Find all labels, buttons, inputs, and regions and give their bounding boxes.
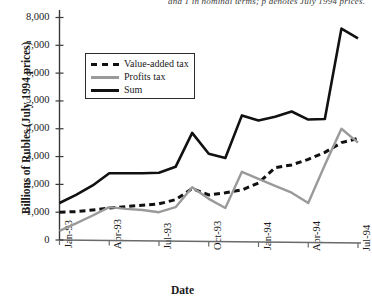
legend-swatch-gray-icon	[91, 76, 119, 79]
legend-swatch-black-icon	[91, 89, 119, 92]
legend-swatch-dashed-icon	[91, 63, 119, 66]
legend-item-sum: Sum	[91, 84, 191, 97]
legend-label: Value-added tax	[124, 58, 189, 69]
legend-item-profits-tax: Profits tax	[91, 71, 191, 84]
legend-item-value-added-tax: Value-added tax	[91, 58, 191, 71]
chart-legend: Value-added tax Profits tax Sum	[85, 53, 195, 99]
legend-label: Sum	[124, 84, 142, 95]
series-line	[60, 129, 359, 231]
legend-label: Profits tax	[124, 71, 165, 82]
